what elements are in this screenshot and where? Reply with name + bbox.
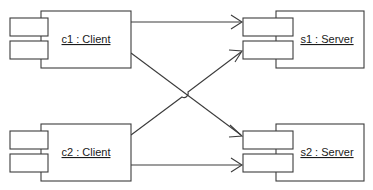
arrowheads-layer bbox=[229, 15, 242, 172]
node-c2-label: c2 : Client bbox=[62, 146, 111, 158]
node-c1-port-lower[interactable] bbox=[10, 41, 48, 59]
node-s2-port-upper[interactable] bbox=[243, 131, 293, 149]
node-c1[interactable]: c1 : Client bbox=[10, 11, 131, 68]
node-s2[interactable]: s2 : Server bbox=[243, 124, 364, 181]
node-s1-port-upper[interactable] bbox=[243, 18, 293, 36]
node-c2-port-lower[interactable] bbox=[10, 154, 48, 172]
node-s2-port-lower[interactable] bbox=[243, 154, 293, 172]
node-s2-label: s2 : Server bbox=[300, 146, 354, 158]
node-s1-port-lower[interactable] bbox=[243, 41, 293, 59]
uml-composite-structure-diagram: c1 : Client c2 : Client s1 : Server s2 :… bbox=[0, 0, 373, 190]
node-s1-label: s1 : Server bbox=[300, 33, 354, 45]
diagram-canvas: c1 : Client c2 : Client s1 : Server s2 :… bbox=[0, 0, 373, 190]
connectors-layer bbox=[131, 22, 241, 165]
node-s1[interactable]: s1 : Server bbox=[243, 11, 364, 68]
node-c1-label: c1 : Client bbox=[62, 33, 111, 45]
node-c2-port-upper[interactable] bbox=[10, 131, 48, 149]
node-c1-port-upper[interactable] bbox=[10, 18, 48, 36]
node-c2[interactable]: c2 : Client bbox=[10, 124, 131, 181]
